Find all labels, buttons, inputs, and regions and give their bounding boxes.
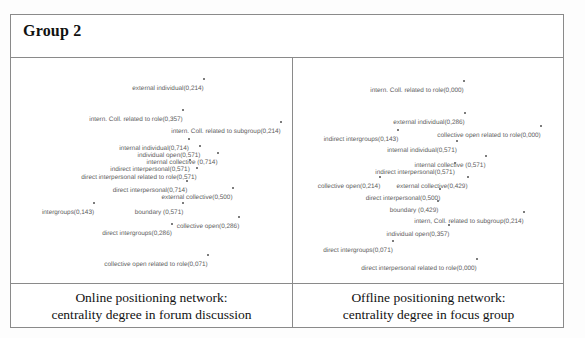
node-marker-icon [186, 180, 188, 182]
node-marker-icon [182, 202, 184, 204]
node-marker-icon [456, 140, 458, 142]
network-node: direct interpersonal related to role(0,0… [419, 265, 534, 273]
group-comparison-table: Group 2 external individual(0,214)intern… [10, 14, 564, 328]
node-label: collective open related to role(0,000) [437, 132, 540, 140]
node-label: indirect interpersonal(0,571) [375, 169, 455, 177]
node-label: external collective(0,429) [396, 183, 467, 191]
node-marker-icon [238, 216, 240, 218]
network-node: external individual(0,286) [429, 119, 500, 127]
node-label: intern. Coll. related to role(0,357) [89, 116, 182, 124]
node-label: external individual(0,286) [393, 119, 464, 127]
network-node: indirect intergroups(0,143) [361, 136, 436, 144]
page-root: Group 2 external individual(0,214)intern… [0, 0, 585, 338]
network-plots-row: external individual(0,214)intern. Coll. … [11, 58, 563, 284]
captions-row: Online positioning network: centrality d… [11, 284, 563, 328]
network-node: direct interpersonal related to role(0,5… [139, 174, 254, 182]
online-caption-line-2: centrality degree in forum discussion [51, 306, 251, 323]
network-node: internal individual(0,571) [422, 147, 492, 155]
network-node: external collective(0,429) [432, 183, 503, 191]
network-node: external collective(0,500) [197, 194, 268, 202]
offline-caption-line-2: centrality degree in focus group [343, 306, 515, 323]
node-marker-icon [540, 125, 542, 127]
offline-network-caption: Offline positioning network: centrality … [293, 284, 564, 328]
node-label: indirect intergroups(0,143) [324, 136, 399, 144]
node-marker-icon [397, 129, 399, 131]
node-marker-icon [199, 145, 201, 147]
node-marker-icon [188, 138, 190, 140]
node-marker-icon [93, 202, 95, 204]
online-network-caption: Online positioning network: centrality d… [11, 284, 293, 328]
online-network-panel: external individual(0,214)intern. Coll. … [11, 58, 293, 283]
node-marker-icon [182, 109, 184, 111]
network-node: indirect interpersonal(0,571) [150, 166, 230, 174]
node-marker-icon [476, 258, 478, 260]
node-marker-icon [439, 188, 441, 190]
node-label: direct intergroups(0,071) [323, 247, 393, 255]
node-marker-icon [437, 200, 439, 202]
node-marker-icon [464, 112, 466, 114]
node-label: direct interpersonal related to role(0,0… [361, 265, 476, 273]
network-node: collective open(0,286) [208, 223, 271, 231]
node-marker-icon [379, 176, 381, 178]
network-node: external individual(0,214) [168, 85, 239, 93]
node-marker-icon [189, 159, 191, 161]
network-node: direct interpersonal(0,500) [403, 195, 478, 203]
network-node: direct intergroups(0,286) [137, 230, 207, 238]
offline-network-panel: intern. Coll. related to role(0,000)exte… [293, 58, 564, 283]
node-marker-icon [467, 176, 469, 178]
node-label: collective open related to role(0,071) [104, 261, 207, 269]
node-label: direct interpersonal related to role(0,5… [81, 174, 196, 182]
node-label: intern. Coll. related to subgroup(0,214) [171, 128, 280, 136]
node-marker-icon [207, 254, 209, 256]
network-node: indirect interpersonal(0,571) [415, 169, 495, 177]
node-label: intergroups(0,143) [42, 209, 94, 217]
online-caption-line-1: Online positioning network: [75, 289, 227, 306]
offline-caption-line-1: Offline positioning network: [351, 289, 505, 306]
offline-network-plot-area: intern. Coll. related to role(0,000)exte… [293, 58, 564, 283]
node-marker-icon [454, 162, 456, 164]
node-marker-icon [523, 211, 525, 213]
node-label: external individual(0,214) [132, 85, 203, 93]
node-marker-icon [196, 167, 198, 169]
network-node: intergroups(0,143) [68, 209, 120, 217]
node-marker-icon [203, 78, 205, 80]
node-label: direct interpersonal(0,500) [366, 195, 441, 203]
group-title: Group 2 [23, 22, 81, 40]
node-label: boundary (0,429) [390, 207, 439, 215]
network-node: intern. Coll. related to subgroup(0,214) [226, 128, 293, 136]
node-label: collective open(0,214) [318, 183, 381, 191]
network-node: collective open related to role(0,071) [156, 261, 259, 269]
online-network-plot-area: external individual(0,214)intern. Coll. … [11, 58, 292, 283]
node-label: intern. Coll. related to role(0,000) [370, 87, 463, 95]
node-label: internal individual(0,571) [387, 147, 457, 155]
network-node: boundary (0,571) [159, 209, 208, 217]
node-marker-icon [280, 121, 282, 123]
node-label: individual open(0,357) [387, 231, 450, 239]
node-marker-icon [171, 223, 173, 225]
node-marker-icon [463, 80, 465, 82]
network-node: intern, Coll. related to subgroup(0,214) [469, 218, 564, 226]
network-node: collective open related to role(0,000) [489, 132, 564, 140]
network-node: direct intergroups(0,071) [358, 247, 428, 255]
network-node: intern. Coll. related to role(0,357) [136, 116, 229, 124]
node-marker-icon [485, 155, 487, 157]
network-node: individual open(0,357) [418, 231, 481, 239]
node-marker-icon [232, 187, 234, 189]
node-label: boundary (0,571) [135, 209, 184, 217]
table-header-row: Group 2 [11, 15, 563, 58]
node-label: intern, Coll. related to subgroup(0,214) [414, 218, 523, 226]
node-label: direct intergroups(0,286) [102, 230, 172, 238]
network-node: intern. Coll. related to role(0,000) [417, 87, 510, 95]
node-label: indirect interpersonal(0,571) [110, 166, 190, 174]
node-label: external collective(0,500) [161, 194, 232, 202]
node-marker-icon [392, 240, 394, 242]
network-node: boundary (0,429) [414, 207, 463, 215]
node-marker-icon [448, 224, 450, 226]
node-marker-icon [217, 152, 219, 154]
